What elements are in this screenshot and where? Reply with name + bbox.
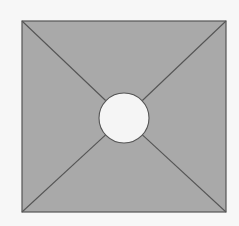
diagram-canvas <box>0 0 239 226</box>
center-circle <box>99 93 149 143</box>
